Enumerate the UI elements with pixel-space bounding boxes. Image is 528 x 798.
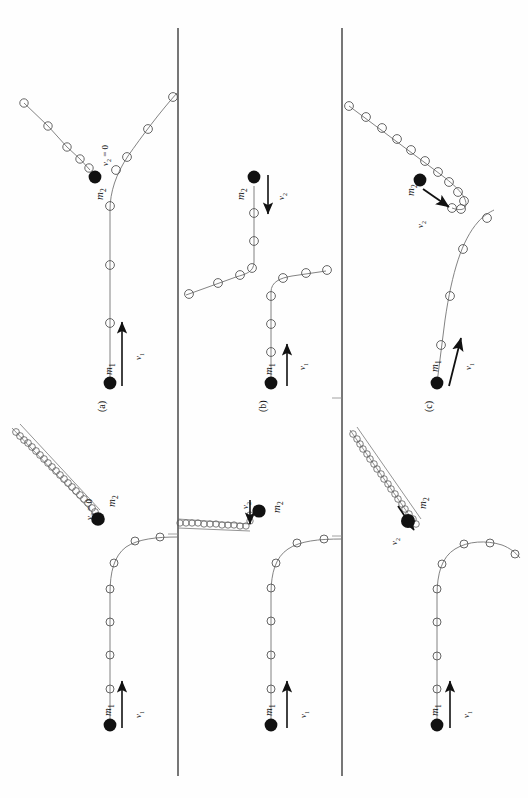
- panel-a-m1-ball: [104, 377, 117, 390]
- panel-a-m2-path: [24, 103, 90, 170]
- panel-f-m1-label: m1: [428, 704, 443, 716]
- panel-a-caption: (a): [96, 401, 107, 412]
- panel-c-v1-label: v1: [463, 363, 475, 370]
- figure-canvas: [0, 0, 528, 798]
- panel-f-m2-label: m2: [416, 497, 431, 509]
- panel-f-m2-band: [350, 427, 421, 527]
- panel-a-m1-path: [110, 93, 177, 382]
- panel-c-m2-label: m2: [404, 184, 419, 196]
- panel-a-m1-label: m1: [102, 363, 117, 375]
- panel-a-v1-label: v1: [133, 353, 145, 360]
- panel-f-m1-ball: [431, 719, 444, 732]
- panel-b-m1-label: m1: [262, 363, 277, 375]
- panel-b-m1-markers: [267, 266, 332, 357]
- panel-d-m1-markers: [106, 533, 164, 693]
- panel-e-m1-label: m1: [262, 704, 277, 716]
- panel-c-m1-ball: [431, 377, 444, 390]
- panel-c-v1-arrow: [449, 338, 461, 386]
- panel-a-m2-label: m2: [93, 188, 108, 200]
- panel-d-traces: [110, 537, 178, 724]
- panel-d-v1-label: v1: [133, 711, 145, 718]
- panel-a-m2-ball: [89, 171, 102, 184]
- panel-c-v2-arrow: [423, 189, 449, 207]
- panel-d-m2-label: m2: [105, 495, 120, 507]
- panel-e-m1-path: [271, 539, 342, 724]
- panel-b-v1-label: v1: [297, 363, 309, 370]
- panel-b-m2-ball: [248, 171, 261, 184]
- panel-e-m2-label: m2: [270, 501, 285, 513]
- panel-d-m1-path: [110, 537, 178, 724]
- panel-c-caption: (c): [423, 401, 434, 412]
- panel-d-m1-label: m1: [101, 704, 116, 716]
- panel-b-caption: (b): [257, 400, 268, 412]
- panel-e-m2-band: [177, 512, 253, 531]
- panel-e-m1-markers: [267, 535, 328, 693]
- panel-f-m1-markers: [433, 539, 519, 693]
- panel-e-m1-ball: [265, 719, 278, 732]
- panel-c-m1-label: m1: [428, 360, 443, 372]
- panel-c-traces: [349, 106, 494, 383]
- panel-e-traces: [271, 539, 342, 724]
- panel-f-v1-label: v1: [461, 711, 473, 718]
- panel-e-m2-ball: [252, 504, 265, 517]
- panel-f-v2-label: v2: [389, 538, 401, 545]
- physics-figure: m2 v2 = 0 m1 v1 (a) m2 v2 m1 v1 (b) m2 v…: [0, 0, 528, 798]
- panel-d-m1-ball: [104, 719, 117, 732]
- panel-b-m1-ball: [265, 377, 278, 390]
- panel-a-traces: [24, 93, 177, 382]
- panel-e-v2-label: v2: [240, 502, 252, 509]
- panel-a-v2-label: v2 = 0: [100, 145, 112, 166]
- panel-b-m2-markers: [185, 209, 259, 299]
- panel-e-v1-label: v1: [298, 711, 310, 718]
- panel-c-m1-markers: [437, 214, 492, 350]
- panel-c-m2-markers: [345, 102, 469, 214]
- panel-d-v2-label: v2 = 0: [84, 499, 96, 520]
- panel-b-v2-label: v2: [276, 193, 288, 200]
- panel-a-m1-markers: [106, 93, 178, 328]
- panel-b-traces: [186, 186, 326, 382]
- panel-b-m2-label: m2: [234, 188, 249, 200]
- panel-c-v2-label: v2: [415, 221, 427, 228]
